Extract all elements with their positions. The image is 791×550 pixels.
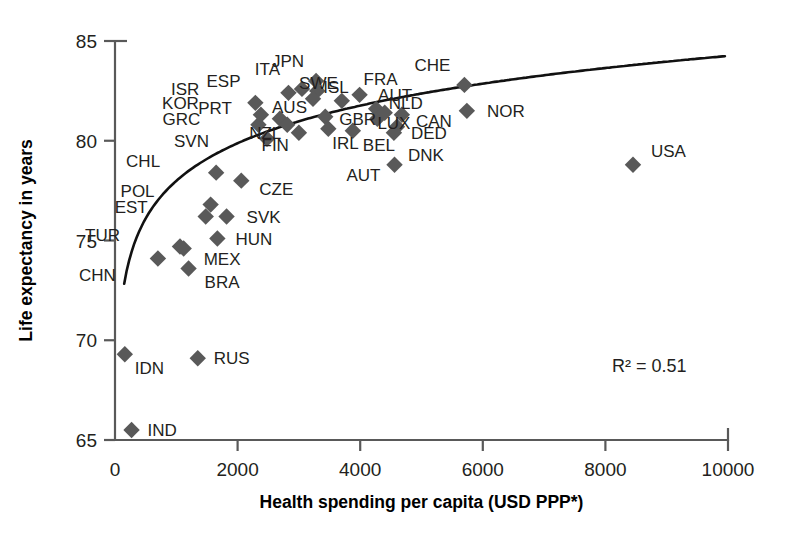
data-marker-chl-11: [208, 164, 224, 180]
y-tick-label-70: 70: [76, 330, 97, 351]
point-label-bra-4: BRA: [205, 273, 241, 292]
point-label-rus-2: RUS: [214, 349, 250, 368]
data-marker-nor-38: [459, 103, 475, 119]
data-marker-svk-9: [218, 208, 234, 224]
data-marker-gbr-25: [317, 109, 333, 125]
x-axis-title: Health spending per capita (USD PPP*): [260, 492, 584, 512]
x-tick-label-10000: 10000: [702, 459, 755, 480]
point-label-fin-21: FIN: [262, 136, 289, 155]
data-marker-hun-7: [209, 230, 225, 246]
r-squared-text: R² = 0.51: [612, 356, 687, 376]
point-label-jpn-22: JPN: [272, 52, 304, 71]
point-label-prt-17: PRT: [198, 99, 232, 118]
data-marker-usa-39: [625, 156, 641, 172]
data-marker-idn-1: [117, 346, 133, 362]
point-label-esp-18: ESP: [206, 72, 240, 91]
point-label-svk-9: SVK: [247, 208, 282, 227]
x-tick-label-2000: 2000: [216, 459, 258, 480]
point-label-swe-27: SWE: [299, 74, 338, 93]
x-tick-label-0: 0: [110, 459, 121, 480]
scatter-chart: 65707580850200040006000800010000 INDIDNR…: [0, 0, 791, 550]
point-label-usa-39: USA: [651, 142, 687, 161]
y-tick-label-85: 85: [76, 31, 97, 52]
y-tick-label-65: 65: [76, 430, 97, 451]
y-axis-title: Life expectancy in years: [16, 139, 36, 342]
point-label-idn-1: IDN: [135, 359, 164, 378]
point-label-hun-7: HUN: [235, 230, 272, 249]
x-tick-label-6000: 6000: [462, 459, 504, 480]
data-marker-rus-2: [190, 350, 206, 366]
point-label-tur-5: TUR: [85, 226, 120, 245]
x-tick-label-8000: 8000: [584, 459, 626, 480]
point-label-irl-26: IRL: [332, 134, 358, 153]
data-marker-che-37: [456, 77, 472, 93]
point-label-bel-28: BEL: [363, 136, 395, 155]
point-label-can-35: CAN: [416, 112, 452, 131]
data-marker-chn-3: [150, 250, 166, 266]
point-label-chl-11: CHL: [126, 152, 160, 171]
point-label-cze-12: CZE: [259, 180, 293, 199]
r-squared-annotation: R² = 0.51: [612, 356, 687, 376]
data-marker-ind-0: [123, 422, 139, 438]
x-tick-label-4000: 4000: [339, 459, 381, 480]
point-label-pol-10: POL: [121, 182, 155, 201]
point-label-nor-38: NOR: [487, 102, 525, 121]
data-marker-fra-29: [351, 87, 367, 103]
point-label-dnk-33: DNK: [408, 146, 445, 165]
point-label-ind-0: IND: [148, 421, 177, 440]
point-label-chn-3: CHN: [79, 266, 116, 285]
data-marker-cze-12: [233, 172, 249, 188]
data-marker-bra-4: [180, 260, 196, 276]
point-label-lux-31: LUX: [377, 114, 410, 133]
point-label-isr-16: ISR: [171, 80, 199, 99]
y-tick-label-80: 80: [76, 131, 97, 152]
point-label-nld-34: NLD: [389, 94, 423, 113]
chart-canvas: 65707580850200040006000800010000 INDIDNR…: [0, 0, 791, 550]
data-marker-aut-36: [386, 156, 402, 172]
point-label-svn-13: SVN: [174, 132, 209, 151]
point-label-gbr-25: GBR: [339, 110, 376, 129]
point-label-aus-24: AUS: [272, 98, 307, 117]
point-label-mex-6: MEX: [204, 250, 241, 269]
point-label-che-37: CHE: [414, 56, 450, 75]
point-label-aut-36: AUT: [347, 166, 381, 185]
axis-titles: Health spending per capita (USD PPP*)Lif…: [16, 139, 583, 512]
